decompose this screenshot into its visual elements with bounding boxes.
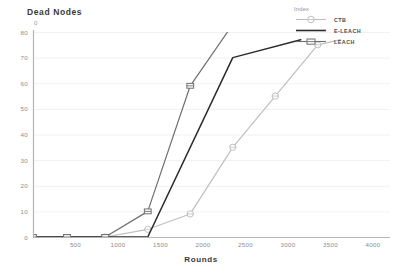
gridlines [33, 33, 390, 212]
y-tick-label: 30 [8, 157, 28, 164]
series-e-leach [33, 40, 301, 237]
y-axis-top-marker: 0 [34, 20, 37, 26]
legend-swatch-circle-icon [292, 14, 330, 25]
chart-canvas [33, 32, 390, 237]
legend-swatch-square-icon [292, 36, 330, 47]
legend-swatch-none-icon [292, 25, 330, 36]
y-axis-title: Dead Nodes [27, 7, 82, 17]
x-tick-label: 1500 [144, 241, 178, 248]
x-axis-title: Rounds [0, 255, 402, 264]
x-tick-label: 3000 [271, 241, 305, 248]
y-tick-label: 0 [8, 234, 28, 241]
x-tick-label: 1000 [101, 241, 135, 248]
y-tick-label: 20 [8, 182, 28, 189]
series-leach [33, 32, 231, 237]
x-tick-label: 2000 [186, 241, 220, 248]
series-line [33, 40, 341, 237]
y-tick-label: 40 [8, 131, 28, 138]
legend-item-ctb[interactable]: CTB [292, 14, 398, 25]
x-tick-label: 3500 [314, 241, 348, 248]
x-tick-label: 4000 [356, 241, 390, 248]
chart-root: Dead Nodes 0 80706050403020100 500100015… [0, 0, 402, 274]
plot-area [33, 32, 390, 237]
y-tick-label: 60 [8, 80, 28, 87]
series-layer [33, 32, 341, 237]
y-tick-label: 50 [8, 105, 28, 112]
series-line [33, 32, 231, 237]
series-line [33, 40, 301, 237]
legend: Index CTBE-LEACHLEACH [292, 6, 398, 47]
y-tick-label: 80 [8, 29, 28, 36]
legend-label: CTB [334, 17, 346, 23]
series-ctb [33, 40, 341, 237]
x-tick-label: 2500 [229, 241, 263, 248]
y-tick-label: 70 [8, 54, 28, 61]
legend-title: Index [294, 6, 398, 12]
legend-item-leach[interactable]: LEACH [292, 36, 398, 47]
legend-item-e-leach[interactable]: E-LEACH [292, 25, 398, 36]
legend-label: E-LEACH [334, 28, 361, 34]
legend-label: LEACH [334, 39, 355, 45]
x-tick-label: 500 [59, 241, 93, 248]
y-tick-label: 10 [8, 208, 28, 215]
legend-items: CTBE-LEACHLEACH [292, 14, 398, 47]
